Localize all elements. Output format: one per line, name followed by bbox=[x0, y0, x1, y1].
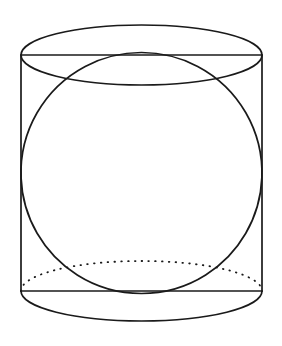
figure-stage bbox=[0, 0, 282, 346]
inscribed-sphere-circle bbox=[21, 53, 262, 294]
cylinder-bottom-back-arc-dotted bbox=[21, 261, 262, 291]
geometry-figure-svg bbox=[0, 0, 282, 346]
cylinder-bottom-front-arc bbox=[21, 291, 262, 321]
